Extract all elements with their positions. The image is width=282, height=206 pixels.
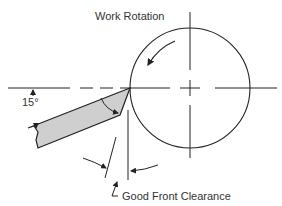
cutting-tool (28, 88, 130, 148)
work-rotation-label: Work Rotation (95, 10, 165, 22)
rotation-arrow-icon (148, 41, 175, 65)
label-pointer (112, 182, 118, 196)
clearance-label: Good Front Clearance (122, 190, 231, 202)
lathe-tool-diagram: Work Rotation 15° Good Front Clearance (0, 0, 282, 206)
diagram-canvas: Work Rotation 15° Good Front Clearance (0, 0, 282, 206)
angle-label: 15° (22, 96, 39, 108)
tool-front-extension-line (105, 137, 116, 178)
clearance-arc-right (131, 165, 158, 171)
clearance-arc-left (83, 158, 106, 168)
